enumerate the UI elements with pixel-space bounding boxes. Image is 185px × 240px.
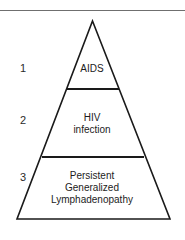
tier-label-hiv-infection-line-1: HIV [22, 112, 162, 124]
tier-label-aids-line-1: AIDS [22, 63, 162, 75]
tier-label-hiv-infection: HIV infection [22, 112, 162, 136]
pyramid-figure: 1 2 3 AIDS HIV infection Persistent Gene… [0, 0, 185, 240]
tier-label-pgl: Persistent Generalized Lymphadenopathy [22, 170, 162, 206]
tier-label-pgl-line-1: Persistent [22, 170, 162, 182]
tier-label-pgl-line-2: Generalized [22, 182, 162, 194]
tier-label-pgl-line-3: Lymphadenopathy [22, 194, 162, 206]
tier-label-hiv-infection-line-2: infection [22, 124, 162, 136]
pyramid-text-layer: 1 2 3 AIDS HIV infection Persistent Gene… [0, 0, 185, 240]
tier-label-aids: AIDS [22, 63, 162, 75]
